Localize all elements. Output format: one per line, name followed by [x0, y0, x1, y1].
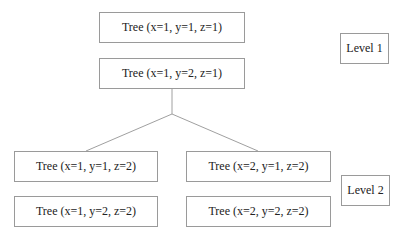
connector-right-branch: [172, 114, 258, 151]
level-label: Level 1: [346, 41, 382, 56]
tree-node-x1-y2-z1: Tree (x=1, y=2, z=1): [99, 58, 245, 89]
tree-node-x2-y2-z2: Tree (x=2, y=2, z=2): [186, 196, 331, 227]
node-label: Tree (x=1, y=2, z=2): [36, 204, 136, 219]
node-label: Tree (x=1, y=2, z=1): [122, 66, 222, 81]
tree-node-x1-y1-z1: Tree (x=1, y=1, z=1): [99, 12, 245, 43]
tree-node-x2-y1-z2: Tree (x=2, y=1, z=2): [186, 151, 331, 182]
node-label: Tree (x=2, y=1, z=2): [208, 159, 308, 174]
node-label: Tree (x=1, y=1, z=1): [122, 20, 222, 35]
connector-left-branch: [86, 114, 172, 151]
node-label: Tree (x=2, y=2, z=2): [208, 204, 308, 219]
node-label: Tree (x=1, y=1, z=2): [36, 159, 136, 174]
level-2-label-box: Level 2: [341, 175, 390, 206]
level-label: Level 2: [347, 183, 383, 198]
tree-node-x1-y2-z2: Tree (x=1, y=2, z=2): [14, 196, 158, 227]
level-1-label-box: Level 1: [340, 33, 389, 64]
tree-node-x1-y1-z2: Tree (x=1, y=1, z=2): [14, 151, 158, 182]
